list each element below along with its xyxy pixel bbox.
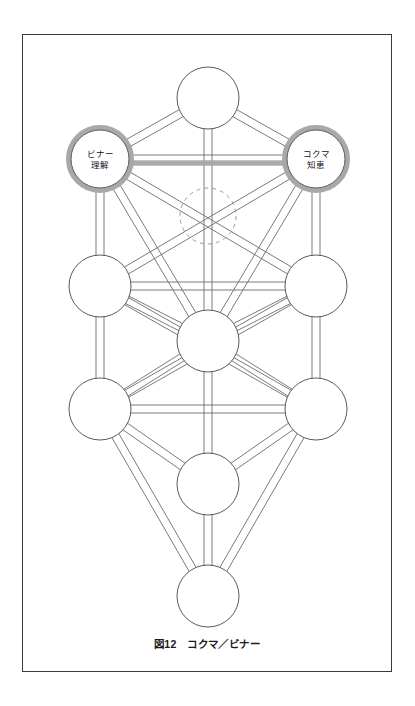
path-binah-chesed — [121, 169, 292, 274]
node-binah[interactable] — [71, 130, 129, 188]
path-rail — [231, 116, 290, 149]
path-chesed-netzach — [312, 315, 320, 380]
node-chokmah[interactable] — [287, 130, 345, 188]
path-rail — [121, 176, 288, 274]
path-rail — [126, 116, 185, 149]
path-hod-netzach — [129, 405, 287, 413]
path-kether-chokmah — [231, 109, 294, 149]
node-hod[interactable] — [69, 378, 131, 440]
node-label-line: ビナー — [87, 149, 114, 159]
path-rail — [122, 109, 181, 142]
path-rail — [123, 169, 290, 267]
node-chesed[interactable] — [285, 255, 347, 317]
tree-of-life-diagram: ビナー理解コクマ知恵 — [23, 35, 393, 635]
path-rail — [111, 436, 190, 572]
node-netzach[interactable] — [285, 378, 347, 440]
path-tiphareth-yesod — [204, 370, 212, 455]
node-malkuth[interactable] — [177, 565, 239, 627]
node-yesod[interactable] — [177, 453, 239, 515]
path-rail — [231, 360, 290, 397]
path-rail — [235, 109, 294, 142]
path-rail — [127, 360, 186, 397]
path-rail — [226, 436, 305, 572]
path-netzach-yesod — [230, 422, 295, 470]
path-chokmah-chesed — [312, 186, 320, 257]
node-label-line: コクマ — [303, 149, 330, 159]
figure-caption: 図12 コクマ／ビナー — [23, 636, 391, 651]
path-tiphareth-hod — [123, 353, 186, 397]
node-kether[interactable] — [177, 67, 239, 129]
node-tiphareth[interactable] — [177, 310, 239, 372]
path-rail — [230, 422, 290, 464]
path-geburah-tiphareth — [124, 296, 184, 332]
path-rail — [232, 296, 288, 324]
node-label-line: 理解 — [91, 160, 109, 170]
path-rail — [124, 303, 180, 331]
node-label-line: 知恵 — [307, 160, 325, 170]
path-rail — [234, 429, 294, 471]
path-tiphareth-netzach — [231, 353, 294, 397]
path-rail — [122, 429, 182, 471]
path-rail — [128, 296, 184, 324]
path-chokmah-geburah — [123, 169, 294, 274]
path-rail — [236, 303, 292, 331]
path-chesed-tiphareth — [232, 296, 292, 332]
path-yesod-malkuth — [204, 513, 212, 567]
node-geburah[interactable] — [69, 255, 131, 317]
path-geburah-hod — [96, 315, 104, 380]
path-geburah-chesed — [129, 282, 287, 290]
path-rail — [126, 422, 186, 464]
path-rail — [125, 169, 292, 267]
figure-frame: ビナー理解コクマ知恵 図12 コクマ／ビナー — [22, 34, 392, 672]
path-kether-binah — [122, 109, 185, 149]
path-rail — [127, 176, 294, 274]
path-binah-geburah — [96, 186, 104, 257]
path-hod-yesod — [122, 422, 187, 470]
